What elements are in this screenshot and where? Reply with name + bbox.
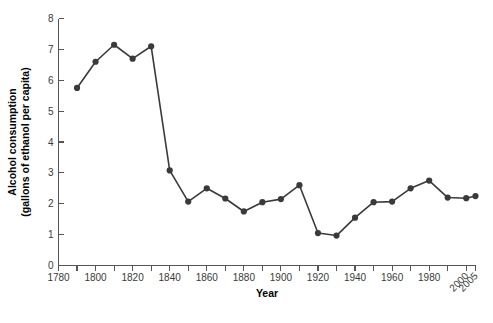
y-tick-label: 3	[48, 167, 54, 178]
data-point-marker	[445, 194, 451, 200]
alcohol-consumption-line-chart: 012345678 178018001820184018601880190019…	[0, 0, 493, 323]
y-tick-label: 8	[48, 13, 54, 24]
data-point-marker	[259, 199, 265, 205]
chart-canvas: 012345678 178018001820184018601880190019…	[0, 0, 493, 323]
data-point-marker	[148, 43, 154, 49]
data-point-marker	[278, 196, 284, 202]
x-tick-label: 1780	[47, 272, 70, 283]
x-tick-label: 1980	[418, 272, 441, 283]
x-tick-label: 1920	[307, 272, 330, 283]
data-point-marker	[472, 193, 478, 199]
y-tick-label: 6	[48, 75, 54, 86]
data-series	[74, 42, 479, 239]
data-point-marker	[426, 177, 432, 183]
data-point-marker	[370, 199, 376, 205]
data-point-marker	[185, 198, 191, 204]
x-tick-label: 1860	[196, 272, 219, 283]
data-point-marker	[111, 42, 117, 48]
data-point-marker	[333, 232, 339, 238]
x-tick-label: 1900	[270, 272, 293, 283]
data-point-marker	[222, 195, 228, 201]
y-tick-label: 1	[48, 229, 54, 240]
data-point-marker	[241, 208, 247, 214]
data-point-marker	[130, 56, 136, 62]
x-tick-label: 1840	[159, 272, 182, 283]
data-point-marker	[352, 215, 358, 221]
x-tick-label: 1820	[122, 272, 145, 283]
data-point-marker	[204, 185, 210, 191]
axis-titles: YearAlcohol consumption(gallons of ethan…	[6, 67, 278, 299]
data-point-marker	[74, 85, 80, 91]
x-tick-label: 1940	[344, 272, 367, 283]
x-tick-label: 1960	[381, 272, 404, 283]
data-point-marker	[389, 198, 395, 204]
y-axis: 012345678	[48, 13, 64, 271]
series-line-path	[77, 45, 475, 236]
x-tick-label: 1800	[84, 272, 107, 283]
y-tick-label: 5	[48, 106, 54, 117]
data-point-marker	[463, 195, 469, 201]
x-tick-label: 1880	[233, 272, 256, 283]
y-tick-label: 7	[48, 44, 54, 55]
data-point-marker	[296, 182, 302, 188]
data-point-marker	[92, 59, 98, 65]
data-point-marker	[315, 230, 321, 236]
x-axis-title: Year	[256, 287, 278, 299]
data-point-marker	[408, 185, 414, 191]
data-point-marker	[167, 167, 173, 173]
y-tick-label: 0	[48, 260, 54, 271]
y-axis-title-line2: (gallons of ethanol per capita)	[19, 67, 31, 216]
y-tick-label: 2	[48, 198, 54, 209]
y-axis-title-line1: Alcohol consumption	[6, 88, 18, 195]
y-tick-label: 4	[48, 137, 54, 148]
